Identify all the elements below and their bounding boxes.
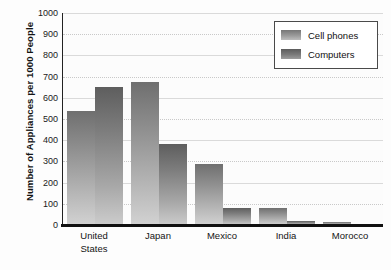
legend-swatch-icon: [281, 49, 301, 59]
y-tick-label: 100: [18, 199, 58, 209]
x-tick-label-line: States: [56, 243, 132, 256]
y-axis-tick-labels: 10009008007006005004003002001000: [14, 13, 58, 225]
legend-item[interactable]: Computers: [281, 46, 371, 62]
bar: [259, 208, 287, 225]
legend-item[interactable]: Cell phones: [281, 27, 371, 43]
y-tick-label: 500: [18, 114, 58, 124]
bar: [131, 82, 159, 225]
y-tick-label: 300: [18, 156, 58, 166]
y-tick-label: 900: [18, 29, 58, 39]
y-tick-label: 200: [18, 178, 58, 188]
x-tick-label: Morocco: [312, 230, 388, 243]
bar: [195, 164, 223, 225]
legend-swatch-icon: [281, 30, 301, 40]
x-tick-label-line: Morocco: [312, 230, 388, 243]
bar: [159, 144, 187, 225]
legend: Cell phonesComputers: [274, 21, 378, 69]
y-tick-label: 400: [18, 135, 58, 145]
bar: [223, 208, 251, 225]
gridline: [63, 13, 383, 14]
y-tick-label: 600: [18, 93, 58, 103]
y-tick-label: 1000: [18, 8, 58, 18]
bar: [95, 87, 123, 225]
bar: [67, 111, 95, 225]
legend-label: Computers: [308, 49, 354, 60]
y-tick-label: 700: [18, 72, 58, 82]
y-tick-label: 0: [18, 220, 58, 230]
x-axis-tick-labels: UnitedStatesJapanMexicoIndiaMorocco: [62, 230, 382, 268]
gridline: [63, 77, 383, 78]
x-axis-line: [61, 224, 383, 227]
y-tick-label: 800: [18, 50, 58, 60]
bar-chart: Number of Appliances per 1000 People 100…: [0, 0, 391, 270]
legend-label: Cell phones: [308, 30, 358, 41]
